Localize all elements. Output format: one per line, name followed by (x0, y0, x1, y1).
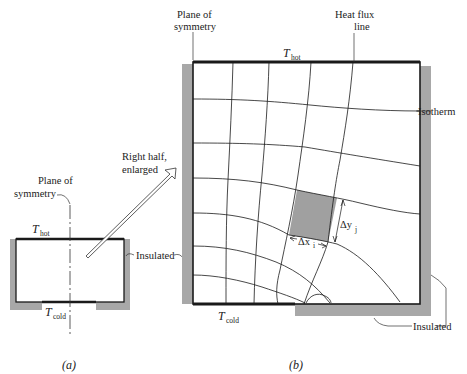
panel-a-body (16, 239, 124, 302)
insulated-leader-bottom (374, 318, 412, 326)
panel-a-t-cold-sub: cold (53, 312, 66, 321)
heat-flux-label-2: line (354, 21, 370, 32)
panel-b-symmetry-label-2: symmetry (174, 21, 217, 32)
panel-b-t-hot-sub: hot (291, 53, 302, 62)
panel-b-body (193, 62, 420, 304)
panel-b-t-cold: T (218, 309, 226, 323)
panel-a-symmetry-label-2: symmetry (14, 188, 57, 199)
panel-b-symmetry-label-1: Plane of (177, 9, 212, 20)
panel-a-symmetry-leader (57, 195, 70, 204)
delta-y-label: Δy (340, 219, 353, 230)
panel-b-insulated-leader-left (174, 254, 183, 258)
panel-b-insulation-left (182, 64, 193, 304)
delta-y-sub: j (354, 225, 357, 234)
panel-a-insulated-label: Insulated (136, 250, 175, 261)
panel-a-t-cold: T (45, 305, 53, 319)
heat-flux-plot-figure: Plane of symmetry T hot T cold Insulated… (0, 0, 467, 374)
panel-a: Plane of symmetry T hot T cold Insulated… (10, 151, 183, 372)
insulated-leader-right (431, 275, 446, 326)
panel-b-t-hot: T (283, 46, 291, 60)
heat-flux-label-1: Heat flux (335, 9, 375, 20)
panel-a-symmetry-label-1: Plane of (38, 175, 73, 186)
delta-x-label: Δx (298, 236, 311, 247)
panel-a-caption: (a) (62, 358, 76, 372)
panel-b-t-cold-sub: cold (226, 316, 239, 325)
enlarge-arrow-icon (86, 168, 176, 258)
arrow-label-1: Right half, (122, 151, 167, 162)
panel-b-caption: (b) (289, 358, 303, 372)
arrow-label-2: enlarged (122, 164, 159, 175)
panel-b: Δy j Δx i Plane of symmetry Heat flux li… (174, 9, 455, 372)
delta-x-sub: i (313, 241, 315, 250)
panel-a-t-hot: T (32, 222, 40, 236)
isotherm-label: Isotherm (418, 106, 455, 117)
panel-a-t-hot-sub: hot (40, 229, 51, 238)
panel-b-insulated-label: Insulated (413, 321, 452, 332)
